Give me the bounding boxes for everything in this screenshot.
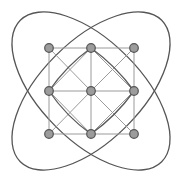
node-top-middle bbox=[87, 44, 96, 53]
node-middle-left bbox=[45, 87, 54, 96]
node-bottom-middle bbox=[87, 130, 96, 139]
graph-diagram bbox=[0, 0, 181, 181]
node-top-right bbox=[130, 44, 139, 53]
node-center bbox=[87, 87, 96, 96]
node-middle-right bbox=[130, 87, 139, 96]
node-bottom-right bbox=[130, 130, 139, 139]
node-bottom-left bbox=[45, 130, 54, 139]
node-top-left bbox=[45, 44, 54, 53]
